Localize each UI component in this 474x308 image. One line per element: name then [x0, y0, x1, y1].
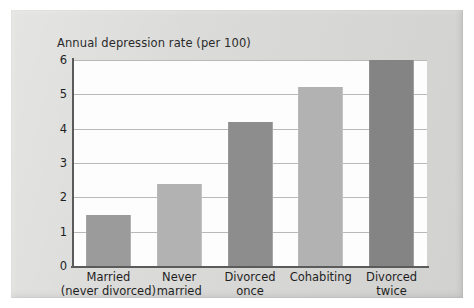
x-axis-line — [71, 266, 429, 268]
bar — [298, 87, 343, 266]
x-axis-tick-labels: Married(never divorced)NevermarriedDivor… — [73, 270, 427, 308]
bar — [157, 184, 202, 266]
y-tick-label: 2 — [60, 190, 67, 204]
y-tick-label: 5 — [60, 87, 67, 101]
y-tick-label: 1 — [60, 225, 67, 239]
x-tick-label-line: Divorced — [341, 270, 442, 284]
bar — [369, 60, 414, 266]
x-tick-label-line: once — [200, 284, 301, 298]
y-tick-label: 6 — [60, 53, 67, 67]
y-axis-line — [72, 58, 74, 268]
plot-area — [73, 60, 427, 266]
x-tick-label: Divorcedtwice — [341, 270, 442, 298]
y-tick-label: 3 — [60, 156, 67, 170]
scanned-page: Annual depression rate (per 100) 0123456… — [0, 0, 474, 308]
chart-panel: Annual depression rate (per 100) 0123456… — [11, 10, 463, 298]
bar — [228, 122, 273, 266]
page-title: Annual depression rate (per 100) — [57, 36, 251, 50]
y-tick-label: 4 — [60, 122, 67, 136]
bar — [86, 215, 131, 267]
y-axis-tick-labels: 0123456 — [45, 60, 67, 266]
x-tick-label-line: twice — [341, 284, 442, 298]
